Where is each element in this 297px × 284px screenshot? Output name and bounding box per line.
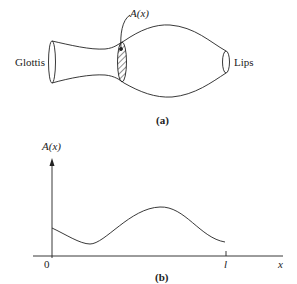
glottis-opening — [49, 41, 56, 83]
leader-dot — [120, 48, 123, 51]
end-label: l — [224, 258, 227, 270]
area-function-plot — [33, 158, 283, 258]
tube-diagram — [49, 15, 230, 97]
x-axis-label: x — [277, 258, 283, 270]
section-area-label: A(x) — [129, 7, 149, 20]
y-axis-arrow-icon — [50, 158, 55, 166]
glottis-label: Glottis — [15, 56, 45, 68]
lips-opening — [223, 51, 230, 73]
area-curve — [52, 207, 225, 244]
vocal-tract-figure: Glottis Lips A(x) (a) A(x) 0 l x (b) — [0, 0, 297, 284]
origin-label: 0 — [44, 258, 50, 270]
caption-b: (b) — [155, 271, 169, 284]
y-axis-label: A(x) — [41, 140, 61, 153]
tube-top-contour — [52, 25, 226, 51]
lips-label: Lips — [234, 56, 254, 68]
caption-a: (a) — [156, 114, 169, 127]
tube-bottom-contour — [52, 73, 226, 97]
